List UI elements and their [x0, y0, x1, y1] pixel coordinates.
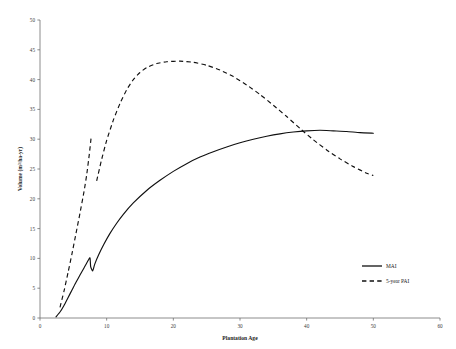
x-tick-label: 60 — [437, 323, 443, 329]
y-tick-label: 15 — [30, 226, 36, 232]
y-tick-label: 40 — [30, 77, 36, 83]
y-tick-label: 30 — [30, 136, 36, 142]
x-tick-label: 30 — [237, 323, 243, 329]
chart-figure: 05101520253035404550 Volume (m³/ha-yr) 0… — [0, 0, 456, 349]
x-tick-label: 20 — [171, 323, 177, 329]
legend-label-5-year-pai: 5-year PAI — [386, 278, 410, 284]
x-tick-label: 0 — [39, 323, 42, 329]
x-tick-label: 40 — [304, 323, 310, 329]
x-tick-label: 50 — [371, 323, 377, 329]
y-tick-label: 45 — [30, 47, 36, 53]
legend-label-mai: MAI — [386, 263, 397, 269]
y-tick-label: 50 — [30, 17, 36, 23]
y-tick-label: 10 — [30, 255, 36, 261]
y-tick-label: 35 — [30, 106, 36, 112]
volume-vs-plantation-age-chart: 05101520253035404550 Volume (m³/ha-yr) 0… — [0, 0, 456, 349]
y-axis-title: Volume (m³/ha-yr) — [17, 147, 24, 191]
y-tick-label: 25 — [30, 166, 36, 172]
x-axis-title: Plantation Age — [222, 335, 258, 341]
y-tick-label: 20 — [30, 196, 36, 202]
x-tick-label: 10 — [104, 323, 110, 329]
y-tick-label: 5 — [32, 285, 35, 291]
y-tick-label: 0 — [32, 315, 35, 321]
